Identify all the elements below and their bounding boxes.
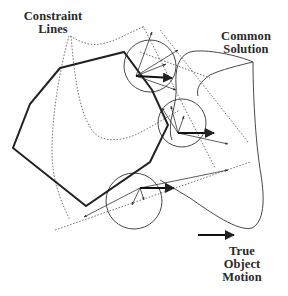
constraint-lines-label: Constraint Lines [22, 10, 84, 36]
constraint-lines-label-line2: Lines [22, 23, 84, 36]
aperture-circle-top [124, 40, 176, 92]
common-solution-curve [160, 51, 263, 229]
object-outline [13, 52, 168, 206]
true-object-motion-label: True Object Motion [212, 245, 272, 284]
constraint-lines [52, 26, 250, 230]
aperture-circle-middle [158, 99, 206, 147]
true-object-motion-label-line3: Motion [212, 271, 272, 284]
common-solution-label-line2: Solution [220, 43, 272, 56]
common-solution-label: Common Solution [220, 30, 272, 56]
